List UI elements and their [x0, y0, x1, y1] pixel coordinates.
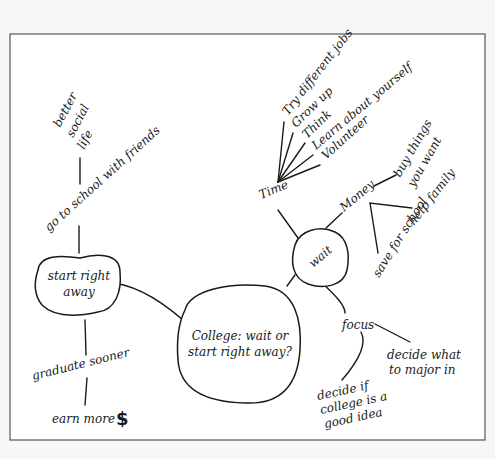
dollar-icon: $ — [116, 408, 129, 429]
center-label-line2: start right away? — [188, 345, 292, 359]
mind-map-svg: College: wait or start right away? start… — [0, 0, 495, 459]
center-label-line1: College: wait or — [192, 329, 290, 343]
major-label-1: decide what — [387, 348, 461, 362]
connector-start-graduate — [85, 320, 86, 355]
earn-label: earn more — [52, 412, 115, 426]
mind-map-canvas: College: wait or start right away? start… — [0, 0, 495, 459]
major-label-2: to major in — [389, 363, 455, 377]
start-label-line1: start right — [48, 269, 110, 283]
focus-label: focus — [341, 318, 374, 332]
start-label-line2: away — [63, 285, 95, 299]
